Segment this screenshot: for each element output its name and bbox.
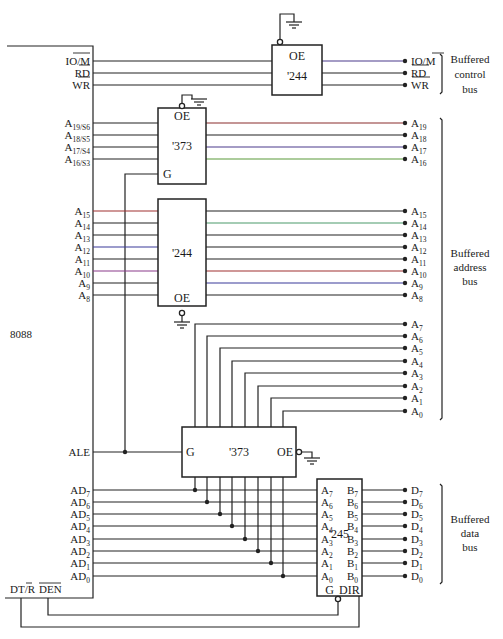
dtr-wire (21, 596, 359, 627)
bus-terminal-dot (403, 233, 407, 237)
junction-dot (243, 537, 247, 541)
bus-terminal-dot (403, 71, 407, 75)
bus-terminal-dot (403, 59, 407, 63)
bus-terminal-dot (403, 121, 407, 125)
junction-dot (230, 524, 234, 528)
oe-bubble (296, 449, 301, 454)
chip-type-label: '373 (229, 445, 249, 459)
g-pin-label: G (163, 167, 172, 181)
chip-type-label: '244 (172, 246, 192, 260)
8088-bus-buffer-schematic: 8088OE'244IO/MIO/MRDRDWRWRBufferedcontro… (0, 0, 503, 639)
bus-terminal-dot (403, 561, 407, 565)
data-bus-label: Buffered (451, 513, 490, 525)
control-input-label: RD (75, 67, 90, 79)
address-low-output-wire (245, 373, 405, 427)
oe-bubble (277, 39, 282, 44)
bus-terminal-dot (403, 257, 407, 261)
ground-icon (286, 22, 302, 28)
bus-terminal-dot (403, 322, 407, 326)
g-pin-label: G (325, 583, 334, 597)
address-bus-label: address (454, 261, 487, 273)
bus-terminal-dot (403, 549, 407, 553)
junction-dot (193, 488, 197, 492)
cpu-name: 8088 (10, 328, 33, 340)
bus-terminal-dot (403, 537, 407, 541)
dir-pin-label: DIR (339, 583, 360, 597)
oe-bubble (179, 310, 184, 315)
junction-dot (205, 500, 209, 504)
junction-dot (281, 574, 285, 578)
ground-icon (304, 458, 320, 464)
bus-terminal-dot (403, 384, 407, 388)
bus-terminal-dot (403, 409, 407, 413)
control-output-label: RD (411, 67, 426, 79)
bus-terminal-dot (403, 157, 407, 161)
control-oe-pin: OE (289, 49, 305, 63)
ale-g-wire (125, 174, 158, 452)
address-low-output-wire (271, 398, 405, 427)
den-wire (48, 598, 338, 615)
data-input-label: AD0 (70, 570, 90, 585)
address-low-output-wire (220, 348, 405, 427)
bus-terminal-dot (403, 221, 407, 225)
bus-terminal-dot (403, 346, 407, 350)
ale-label: ALE (69, 446, 91, 458)
g-bubble (335, 596, 340, 601)
address-bus-brace (440, 118, 442, 420)
ground-icon (191, 99, 207, 105)
oe-ground-wire (280, 14, 294, 39)
den-label: DEN (39, 583, 62, 595)
control-input-label: WR (72, 79, 90, 91)
address-low-output-wire (283, 411, 405, 427)
g-pin-label: G (186, 445, 195, 459)
data-bus-brace (440, 484, 442, 584)
oe-ground-wire (302, 452, 312, 458)
address-low-output-wire (207, 336, 405, 427)
bus-terminal-dot (403, 359, 407, 363)
data-bus-label: bus (462, 541, 477, 553)
bus-terminal-dot (403, 245, 407, 249)
junction-dot (218, 512, 222, 516)
control-output-label: WR (411, 79, 429, 91)
bus-terminal-dot (403, 209, 407, 213)
bus-terminal-dot (403, 500, 407, 504)
oe-ground-wire (182, 95, 192, 103)
control-output-label: IO/M (411, 55, 436, 67)
oe-pin-label: OE (277, 445, 293, 459)
bus-terminal-dot (403, 269, 407, 273)
bus-terminal-dot (403, 512, 407, 516)
control-bus-label: control (454, 68, 485, 80)
control-chip-type: '244 (287, 69, 307, 83)
control-bus-label: Buffered (451, 53, 490, 65)
data-output-label: D0 (411, 570, 423, 585)
address-low-output-wire (258, 386, 405, 427)
oe-bubble (179, 103, 184, 108)
junction-dot (269, 561, 273, 565)
chip-type-label: '373 (172, 139, 192, 153)
control-bus-label: bus (462, 83, 477, 95)
address-bus-label: bus (462, 275, 477, 287)
oe-pin-label: OE (174, 109, 190, 123)
bus-terminal-dot (403, 145, 407, 149)
control-bus-brace (440, 54, 442, 94)
bus-terminal-dot (403, 396, 407, 400)
bus-terminal-dot (403, 83, 407, 87)
bus-terminal-dot (403, 524, 407, 528)
bus-terminal-dot (403, 334, 407, 338)
bus-terminal-dot (403, 293, 407, 297)
bus-terminal-dot (403, 574, 407, 578)
bus-terminal-dot (403, 371, 407, 375)
data-bus-label: data (461, 527, 479, 539)
bus-terminal-dot (403, 488, 407, 492)
oe-pin-label: OE (174, 291, 190, 305)
bus-terminal-dot (403, 133, 407, 137)
junction-dot (256, 549, 260, 553)
dtr-label: DT/R (10, 583, 36, 595)
junction-dot (123, 450, 127, 454)
ground-icon (174, 322, 190, 328)
address-output-label: A0 (411, 405, 423, 420)
bus-terminal-dot (403, 281, 407, 285)
address-bus-label: Buffered (451, 247, 490, 259)
control-input-label: IO/M (66, 55, 91, 67)
